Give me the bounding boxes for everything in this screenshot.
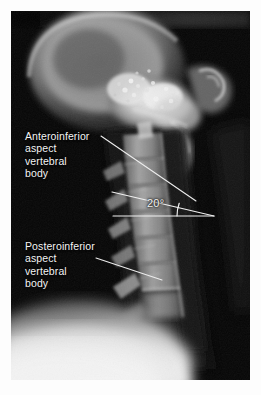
radiograph-figure: Anteroinferior aspect vertebral body Pos… [0, 0, 261, 395]
label-posteroinferior-aspect-vertebral-body: Posteroinferior aspect vertebral body [25, 240, 95, 290]
label-posteroinferior-line-3: vertebral [25, 265, 95, 277]
label-posteroinferior-line-4: body [25, 277, 95, 289]
label-anteroinferior-aspect-vertebral-body: Anteroinferior aspect vertebral body [25, 130, 89, 180]
label-anteroinferior-line-4: body [25, 167, 89, 179]
label-anteroinferior-line-1: Anteroinferior [25, 130, 89, 142]
label-anteroinferior-line-3: vertebral [25, 155, 89, 167]
label-anteroinferior-line-2: aspect [25, 142, 89, 154]
label-posteroinferior-line-1: Posteroinferior [25, 240, 95, 252]
angle-measurement-value: 20° [147, 197, 164, 209]
film-grain [11, 11, 250, 380]
xray-rendering [11, 11, 250, 380]
label-posteroinferior-line-2: aspect [25, 252, 95, 264]
radiograph-image [11, 11, 250, 380]
